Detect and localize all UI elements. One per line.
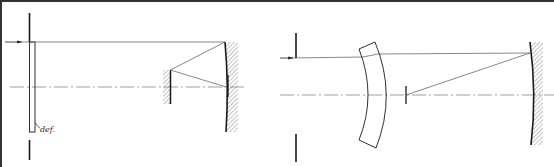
reflected-ray-right [406,53,530,95]
figure-border [0,0,554,167]
optical-diagram-figure: def. [0,0,554,167]
reflected-ray-2-left [171,70,227,87]
incoming-ray-right [290,57,363,58]
ray-to-mirror-right [378,53,530,54]
reflected-ray-1-left [171,42,226,70]
left-diagram: def. [5,13,245,160]
label-def: def. [40,125,55,134]
refracted-ray-in-lens [363,54,378,57]
folding-mirror-hatch [163,70,170,104]
right-diagram [280,33,554,162]
